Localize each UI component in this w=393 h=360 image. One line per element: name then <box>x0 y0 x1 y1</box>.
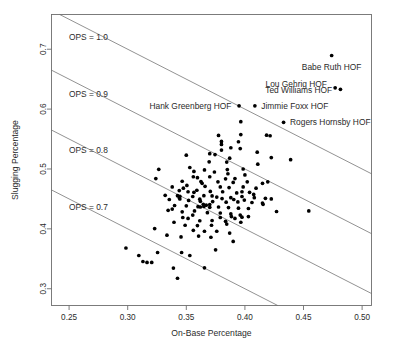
data-point <box>227 206 231 210</box>
data-point <box>191 213 195 217</box>
data-point <box>200 182 204 186</box>
data-point <box>178 197 182 201</box>
data-point <box>217 205 221 209</box>
data-point <box>157 167 161 171</box>
x-axis-title: On-Base Percentage <box>171 328 251 338</box>
data-point <box>233 177 237 181</box>
data-point <box>180 179 184 183</box>
scatter-chart: 0.250.300.350.400.450.50 0.30.40.50.60.7… <box>0 0 393 360</box>
player-label: Rogers Hornsby HOF <box>290 117 371 127</box>
data-point <box>150 261 154 265</box>
data-point <box>156 251 160 255</box>
data-point <box>216 180 220 184</box>
data-point <box>185 184 189 188</box>
data-point <box>256 162 260 166</box>
data-point <box>203 168 207 172</box>
data-point <box>177 189 181 193</box>
data-point <box>206 211 210 215</box>
data-point <box>217 134 221 138</box>
data-point <box>208 203 212 207</box>
data-point <box>180 251 184 255</box>
ops-line-labels: OPS = 1.0OPS = 0.9OPS = 0.8OPS = 0.7 <box>69 32 108 212</box>
plot-frame-group <box>52 15 372 306</box>
data-point <box>176 276 180 280</box>
data-point <box>307 209 311 213</box>
data-point <box>203 184 207 188</box>
player-label: Jimmie Foxx HOF <box>261 101 328 111</box>
data-point <box>172 266 176 270</box>
data-point <box>204 203 208 207</box>
data-point <box>220 197 224 201</box>
data-point <box>224 177 228 181</box>
data-point <box>208 152 212 156</box>
data-point <box>186 217 190 221</box>
data-point <box>245 180 249 184</box>
data-point <box>266 180 270 184</box>
data-point <box>247 207 251 211</box>
data-point <box>124 246 128 250</box>
data-point <box>166 208 170 212</box>
data-point <box>196 176 200 180</box>
data-point <box>197 234 201 238</box>
data-point <box>208 175 212 179</box>
data-point <box>225 160 229 164</box>
ops-label: OPS = 1.0 <box>69 32 108 42</box>
data-point <box>224 200 228 204</box>
data-point <box>210 219 214 223</box>
data-point <box>192 190 196 194</box>
data-point <box>254 186 258 190</box>
data-point <box>261 182 265 186</box>
data-point <box>241 185 245 189</box>
data-point <box>265 133 269 137</box>
y-tick-label: 0.4 <box>39 223 48 235</box>
ops-label: OPS = 0.8 <box>69 145 108 155</box>
data-point <box>229 146 233 150</box>
data-point <box>203 229 207 233</box>
data-point <box>211 200 215 204</box>
data-point <box>252 196 256 200</box>
data-point <box>184 153 188 157</box>
data-point <box>221 190 225 194</box>
y-tick-label: 0.6 <box>39 103 48 115</box>
data-point <box>153 227 157 231</box>
ops-label: OPS = 0.9 <box>69 89 108 99</box>
data-point <box>141 260 145 264</box>
data-point <box>182 186 186 190</box>
ops-label: OPS = 0.7 <box>69 202 108 212</box>
data-point <box>231 240 235 244</box>
data-point <box>181 216 185 220</box>
data-point <box>193 209 197 213</box>
data-point <box>215 229 219 233</box>
data-point <box>231 181 235 185</box>
data-point <box>255 150 259 154</box>
data-point <box>213 153 217 157</box>
data-point <box>227 186 231 190</box>
data-point <box>233 217 237 221</box>
data-point <box>218 216 222 220</box>
data-point <box>261 202 265 206</box>
data-point <box>218 211 222 215</box>
data-point <box>228 231 232 235</box>
data-point <box>241 167 245 171</box>
data-point <box>208 190 212 194</box>
x-tick-label: 0.45 <box>296 313 312 322</box>
data-point <box>198 197 202 201</box>
data-point <box>330 54 334 58</box>
data-point <box>237 104 241 108</box>
data-point <box>220 148 224 152</box>
data-point <box>339 87 343 91</box>
data-point <box>210 223 214 227</box>
player-annotations: Babe Ruth HOFLou Gehrig HOFTed Williams … <box>149 62 370 127</box>
data-point <box>236 200 240 204</box>
data-point <box>333 86 337 90</box>
data-point <box>240 190 244 194</box>
x-tick-label: 0.35 <box>178 313 194 322</box>
data-point <box>163 193 167 197</box>
data-point <box>289 158 293 162</box>
data-point <box>170 207 174 211</box>
data-point <box>248 190 252 194</box>
data-point <box>203 266 207 270</box>
y-tick-label: 0.7 <box>39 43 48 55</box>
data-point <box>180 210 184 214</box>
x-tick-label: 0.40 <box>237 313 253 322</box>
